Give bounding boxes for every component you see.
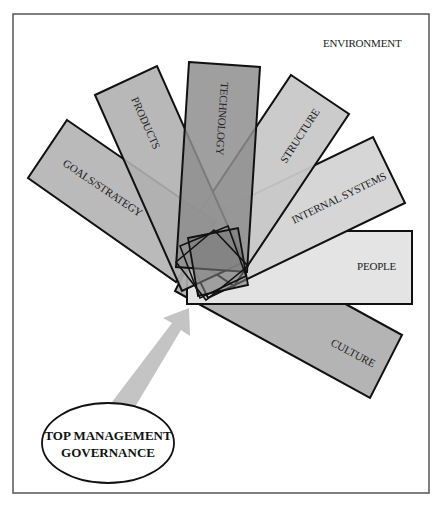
organization-fan-diagram: ENVIRONMENT CULTURE PEOPLE INTERNAL SYST… [0, 0, 441, 506]
governance-line2: GOVERNANCE [61, 445, 155, 460]
people-label: PEOPLE [357, 260, 397, 272]
governance-line1: TOP MANAGEMENT [44, 428, 172, 443]
top-management-governance: TOP MANAGEMENT GOVERNANCE [42, 403, 174, 483]
environment-label: ENVIRONMENT [323, 37, 402, 49]
